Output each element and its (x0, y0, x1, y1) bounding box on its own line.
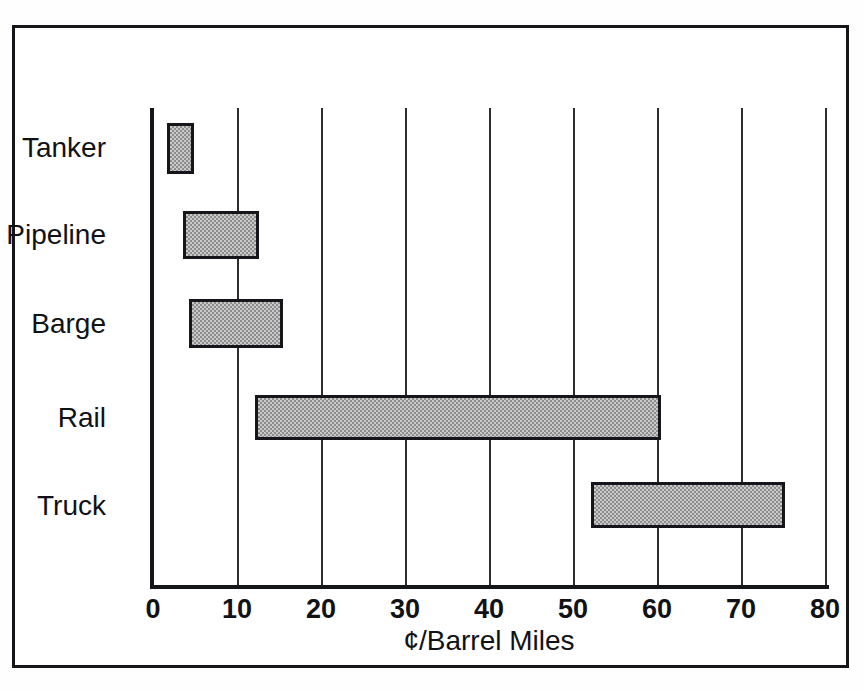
chart-figure: Tanker Pipeline Barge Rail Truck 0 (0, 0, 864, 691)
plot-area: 0 10 20 30 40 50 60 70 80 (153, 108, 825, 585)
y-axis-line (150, 108, 154, 585)
category-label-tanker: Tanker (22, 132, 106, 164)
category-label-rail: Rail (58, 402, 106, 434)
gridline-50 (573, 108, 575, 585)
category-label-barge: Barge (31, 308, 106, 340)
gridline-30 (405, 108, 407, 585)
xtick-label-20: 20 (306, 594, 336, 625)
xtick-label-80: 80 (810, 594, 840, 625)
gridline-80 (825, 108, 827, 585)
gridline-20 (321, 108, 323, 585)
gridline-40 (489, 108, 491, 585)
xtick-label-30: 30 (390, 594, 420, 625)
figure-border-frame: Tanker Pipeline Barge Rail Truck 0 (12, 25, 849, 668)
category-label-truck: Truck (37, 490, 106, 522)
bar-tanker (167, 123, 194, 174)
bar-truck (591, 482, 785, 528)
bar-barge (189, 299, 283, 348)
bar-rail (255, 395, 662, 440)
xtick-label-70: 70 (726, 594, 756, 625)
xtick-label-50: 50 (558, 594, 588, 625)
bar-pipeline (183, 211, 259, 259)
xtick-label-40: 40 (474, 594, 504, 625)
xtick-label-0: 0 (145, 594, 160, 625)
x-axis-title: ¢/Barrel Miles (153, 625, 825, 657)
xtick-label-60: 60 (642, 594, 672, 625)
xtick-label-10: 10 (222, 594, 252, 625)
category-label-pipeline: Pipeline (6, 219, 106, 251)
x-axis-line (150, 585, 829, 589)
